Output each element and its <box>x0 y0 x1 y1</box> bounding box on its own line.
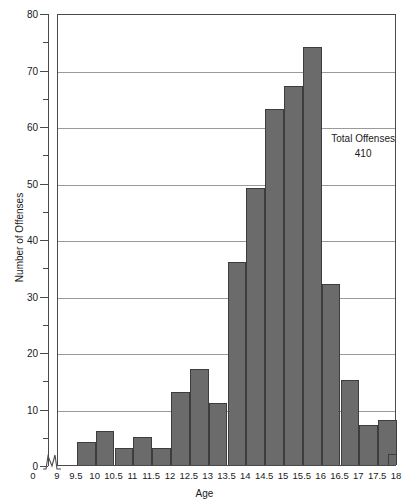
x-tick-label: 13.5 <box>217 470 236 481</box>
x-axis: Age 99.51010.51111.51212.51313.51414.515… <box>0 466 409 501</box>
y-tick-major <box>40 410 48 411</box>
histogram-bar <box>246 188 265 465</box>
histogram-bar <box>133 437 152 465</box>
y-tick-label: 80 <box>27 9 38 20</box>
bar-series <box>58 15 395 465</box>
histogram-bar <box>228 262 247 465</box>
histogram-bar <box>265 109 284 465</box>
y-tick-label: 30 <box>27 291 38 302</box>
histogram-bar <box>115 448 134 465</box>
x-tick-label: 15 <box>278 470 289 481</box>
y-tick-label: 40 <box>27 235 38 246</box>
histogram-bar <box>341 380 360 465</box>
x-tick-label: 18 <box>391 470 402 481</box>
histogram-bar <box>209 403 228 465</box>
y-tick-major <box>40 71 48 72</box>
annotation-label: Total Offenses <box>331 132 395 147</box>
x-tick-label: 17.5 <box>368 470 387 481</box>
histogram-bar <box>284 86 303 465</box>
x-tick-label: 14 <box>240 470 251 481</box>
y-tick-label: 60 <box>27 122 38 133</box>
histogram-bar <box>96 431 115 465</box>
x-tick-label: 12.5 <box>180 470 199 481</box>
x-tick-label: 11 <box>127 470 137 481</box>
histogram-bar <box>303 47 322 465</box>
annotation-value: 410 <box>331 147 395 162</box>
histogram-bar <box>77 442 96 465</box>
x-tick-label: 16.5 <box>330 470 349 481</box>
x-axis-label: Age <box>0 488 409 499</box>
x-tick-label: 16 <box>315 470 326 481</box>
x-tick-label: 10.5 <box>104 470 123 481</box>
histogram-figure: 01020304050607080 Number of Offenses Age… <box>0 0 409 501</box>
y-tick-major <box>40 127 48 128</box>
histogram-bar-tail <box>388 454 397 465</box>
y-axis-label: Number of Offenses <box>14 173 25 303</box>
histogram-bar <box>359 425 378 465</box>
y-tick-major <box>40 297 48 298</box>
x-tick-label: 13 <box>202 470 213 481</box>
x-tick-label: 15.5 <box>293 470 312 481</box>
x-tick-label: 11.5 <box>142 470 160 481</box>
y-axis-line <box>48 14 49 466</box>
x-tick-label: 17 <box>353 470 364 481</box>
y-tick-label: 10 <box>27 404 38 415</box>
histogram-bar <box>190 369 209 465</box>
histogram-bar <box>171 392 190 465</box>
plot-area <box>57 14 396 466</box>
histogram-bar <box>152 448 171 465</box>
x-tick-label: 14.5 <box>255 470 274 481</box>
y-tick-major <box>40 240 48 241</box>
histogram-bar <box>322 284 341 465</box>
origin-label: 0 <box>30 470 35 481</box>
y-tick-major <box>40 14 48 15</box>
x-tick-label: 12 <box>165 470 176 481</box>
total-offenses-annotation: Total Offenses 410 <box>331 132 395 161</box>
x-tick-label: 9 <box>54 470 59 481</box>
y-tick-label: 50 <box>27 178 38 189</box>
y-tick-label: 70 <box>27 65 38 76</box>
y-tick-label: 20 <box>27 348 38 359</box>
x-tick-label: 9.5 <box>69 470 82 481</box>
x-tick-label: 10 <box>89 470 100 481</box>
y-tick-major <box>40 353 48 354</box>
y-tick-major <box>40 184 48 185</box>
